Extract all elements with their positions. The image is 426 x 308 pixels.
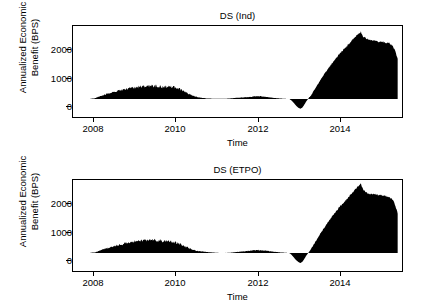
x-tick-2012-bottom: 2012 xyxy=(247,277,268,288)
x-tick-2008-top: 2008 xyxy=(82,123,103,134)
panel-ds-ind: DS (Ind) Annualized EconomicBenefit (BPS… xyxy=(0,0,426,154)
x-tickmark-2014-bottom xyxy=(340,272,341,276)
x-tick-2010-bottom: 2010 xyxy=(164,277,185,288)
x-tickmark-2008-top xyxy=(93,118,94,122)
x-tickmark-2014-top xyxy=(340,118,341,122)
x-tick-2012-top: 2012 xyxy=(247,123,268,134)
x-tickmark-2012-top xyxy=(258,118,259,122)
x-axis-label-top: Time xyxy=(72,137,403,148)
x-tick-2008-bottom: 2008 xyxy=(82,277,103,288)
x-axis-ticks-top: 2008 2010 2012 2014 xyxy=(0,0,426,154)
x-tick-2014-bottom: 2014 xyxy=(329,277,350,288)
x-axis-label-bottom: Time xyxy=(72,291,403,302)
x-tickmark-2010-bottom xyxy=(175,272,176,276)
figure: DS (Ind) Annualized EconomicBenefit (BPS… xyxy=(0,0,426,308)
panel-ds-etpo: DS (ETPO) Annualized EconomicBenefit (BP… xyxy=(0,154,426,308)
x-axis-ticks-bottom: 2008 2010 2012 2014 xyxy=(0,154,426,308)
x-tickmark-2008-bottom xyxy=(93,272,94,276)
x-tick-2014-top: 2014 xyxy=(329,123,350,134)
x-tickmark-2010-top xyxy=(175,118,176,122)
x-tickmark-2012-bottom xyxy=(258,272,259,276)
x-tick-2010-top: 2010 xyxy=(164,123,185,134)
